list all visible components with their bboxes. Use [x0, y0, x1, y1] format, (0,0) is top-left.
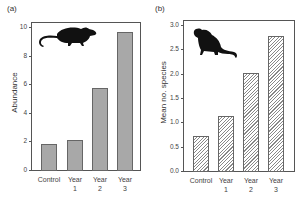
x-category-label: Control — [36, 175, 62, 193]
y-tick-label: 0.0 — [163, 167, 179, 174]
y-tick-mark — [181, 74, 184, 75]
bar-control — [193, 136, 209, 172]
y-tick-mark — [29, 141, 32, 142]
y-tick-label: 8 — [11, 52, 27, 59]
x-category-label: Year2 — [238, 176, 264, 194]
y-tick-label: 6 — [11, 80, 27, 87]
y-tick-mark — [29, 56, 32, 57]
y-tick-mark — [181, 25, 184, 26]
x-category-label: Year3 — [263, 176, 289, 194]
rat-silhouette-icon — [37, 24, 99, 54]
x-category-label: Year1 — [213, 176, 239, 194]
x-category-label: Year1 — [62, 175, 88, 193]
y-tick-label: 0 — [11, 166, 27, 173]
bar-year-3 — [117, 32, 133, 171]
y-tick-label: 1.0 — [163, 118, 179, 125]
y-tick-mark — [29, 170, 32, 171]
y-tick-mark — [181, 49, 184, 50]
bar-year-2 — [92, 88, 108, 171]
bar-year-3 — [268, 36, 284, 172]
bar-year-1 — [218, 116, 234, 172]
y-tick-mark — [29, 113, 32, 114]
y-tick-mark — [181, 98, 184, 99]
x-category-label: Control — [188, 176, 214, 194]
y-tick-label: 4 — [11, 109, 27, 116]
panel-a-label: (a) — [7, 4, 17, 13]
y-tick-mark — [181, 147, 184, 148]
bar-year-1 — [67, 140, 83, 171]
y-tick-mark — [181, 122, 184, 123]
x-category-label: Year2 — [87, 175, 113, 193]
y-tick-mark — [29, 84, 32, 85]
bar-control — [41, 144, 57, 171]
y-tick-label: 2.0 — [163, 70, 179, 77]
rat-silhouette-icon — [190, 25, 240, 65]
y-tick-mark — [181, 171, 184, 172]
x-category-label: Year3 — [112, 175, 138, 193]
y-tick-mark — [29, 27, 32, 28]
y-tick-label: 1.5 — [163, 94, 179, 101]
y-tick-label: 0.5 — [163, 143, 179, 150]
panel-b-label: (b) — [155, 4, 165, 13]
y-tick-label: 2 — [11, 137, 27, 144]
y-tick-label: 2.5 — [163, 45, 179, 52]
y-tick-label: 3.0 — [163, 21, 179, 28]
y-tick-label: 10 — [11, 23, 27, 30]
bar-year-2 — [243, 73, 259, 172]
